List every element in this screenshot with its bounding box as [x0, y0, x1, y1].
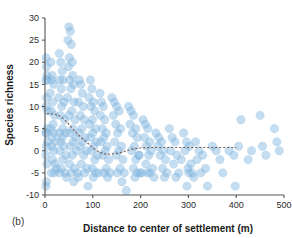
data-point	[231, 182, 239, 190]
data-point	[115, 107, 123, 115]
data-point	[101, 116, 109, 124]
data-point	[80, 151, 88, 159]
data-point	[171, 138, 179, 146]
data-point	[88, 85, 96, 93]
data-point	[89, 173, 97, 181]
data-point	[275, 147, 283, 155]
data-point	[262, 151, 270, 159]
y-tick-label: 10	[29, 102, 39, 112]
data-point	[119, 155, 127, 163]
y-tick-label: 30	[29, 13, 39, 23]
data-point	[58, 102, 66, 110]
y-axis-title: Species richness	[4, 64, 15, 146]
data-point	[113, 129, 121, 137]
x-tick-label: 400	[229, 200, 244, 210]
data-point	[244, 155, 252, 163]
panel-label: (b)	[12, 216, 24, 227]
data-point	[96, 89, 104, 97]
data-point	[104, 155, 112, 163]
x-tick-label: 300	[181, 200, 196, 210]
data-point	[57, 85, 65, 93]
data-point	[172, 173, 180, 181]
data-point	[129, 111, 137, 119]
data-point	[46, 89, 54, 97]
data-point	[150, 173, 158, 181]
x-tick-label: 200	[133, 200, 148, 210]
data-point	[68, 151, 76, 159]
data-point	[99, 102, 107, 110]
data-point	[67, 40, 75, 48]
x-tick-label: 500	[276, 200, 291, 210]
data-point	[183, 182, 191, 190]
data-point	[169, 160, 177, 168]
y-tick-label: 20	[29, 57, 39, 67]
figure-panel-b: -10-5051015202530 0100200300400500 Dista…	[0, 0, 292, 238]
data-point	[179, 129, 187, 137]
data-point	[273, 138, 281, 146]
data-point	[230, 151, 238, 159]
data-point	[91, 155, 99, 163]
data-point	[47, 58, 55, 66]
x-tick-label: 100	[85, 200, 100, 210]
data-point	[84, 182, 92, 190]
data-point	[177, 155, 185, 163]
data-point	[74, 173, 82, 181]
data-point	[219, 169, 227, 177]
data-point	[144, 124, 152, 132]
data-point	[86, 76, 94, 84]
scatter-plot: -10-5051015202530 0100200300400500 Dista…	[0, 0, 292, 238]
data-point	[77, 80, 85, 88]
data-point	[79, 102, 87, 110]
data-point	[67, 85, 75, 93]
y-tick-label: -5	[31, 168, 39, 178]
data-point	[234, 142, 242, 150]
data-point	[165, 124, 173, 132]
data-point	[42, 182, 50, 190]
data-point	[193, 155, 201, 163]
data-point	[258, 142, 266, 150]
data-point	[270, 124, 278, 132]
data-point	[103, 173, 111, 181]
data-point	[145, 151, 153, 159]
data-point	[191, 138, 199, 146]
data-point	[160, 173, 168, 181]
data-point	[55, 49, 63, 57]
y-tick-label: 25	[29, 35, 39, 45]
data-point	[57, 58, 65, 66]
data-point	[203, 182, 211, 190]
data-point	[247, 147, 255, 155]
data-point	[122, 186, 130, 194]
data-point	[216, 155, 224, 163]
data-point	[64, 62, 72, 70]
y-tick-label: 0	[34, 146, 39, 156]
data-point	[197, 169, 205, 177]
data-point	[135, 151, 143, 159]
data-point	[256, 111, 264, 119]
y-tick-label: 5	[34, 124, 39, 134]
data-point	[237, 116, 245, 124]
data-point	[120, 169, 128, 177]
data-point	[118, 178, 126, 186]
y-tick-label: -10	[26, 190, 39, 200]
data-point	[66, 27, 74, 35]
x-tick-label: 0	[42, 200, 47, 210]
y-tick-label: 15	[29, 80, 39, 90]
data-point	[161, 155, 169, 163]
x-axis-title: Distance to center of settlement (m)	[83, 223, 253, 234]
